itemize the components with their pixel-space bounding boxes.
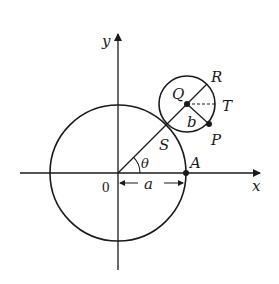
point-S-label: S	[159, 136, 169, 154]
point-Q-label: Q	[172, 85, 184, 103]
theta-label: θ	[141, 156, 149, 171]
b-length-label: b	[187, 113, 197, 131]
point-P	[206, 121, 212, 127]
point-P-label: P	[210, 131, 222, 149]
y-axis-label: y	[101, 32, 111, 50]
point-R-label: R	[210, 68, 222, 86]
origin-label: 0	[102, 179, 110, 195]
a-length-label: a	[144, 175, 153, 193]
theta-arc	[134, 157, 140, 173]
point-T-label: T	[222, 97, 233, 115]
point-A	[183, 170, 189, 176]
x-axis-label: x	[252, 177, 261, 195]
point-Q	[184, 101, 190, 107]
epicycloid-diagram: y x 0 a θ A S Q R T P b	[0, 0, 279, 284]
point-A-label: A	[188, 154, 201, 172]
